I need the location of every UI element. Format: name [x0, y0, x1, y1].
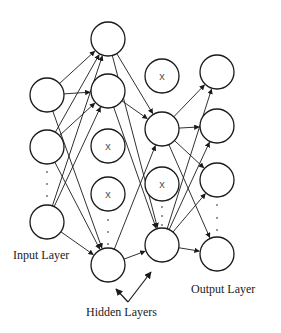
connection-arrow — [122, 101, 147, 119]
output-neuron — [200, 237, 234, 271]
hidden1-neuron — [91, 248, 125, 282]
connections — [52, 51, 211, 259]
output-layer-label: Output Layer — [191, 282, 255, 297]
ellipsis-dot — [46, 195, 48, 197]
ellipsis-dot — [216, 217, 218, 219]
input-neuron — [30, 130, 64, 164]
hidden-layers-label: Hidden Layers — [86, 305, 157, 320]
ellipsis-dot — [161, 224, 163, 226]
connection-arrow — [60, 51, 95, 83]
ellipsis-dot — [107, 243, 109, 245]
connection-arrow — [179, 127, 199, 128]
connection-arrow — [179, 248, 199, 251]
ellipsis-dot — [161, 206, 163, 208]
ellipsis-dot — [107, 219, 109, 221]
dropout-x-mark: x — [159, 70, 165, 82]
hidden1-neuron — [91, 74, 125, 108]
hidden2-neuron — [145, 228, 179, 262]
dropout-x-mark: x — [105, 140, 111, 152]
ellipsis-dot — [107, 231, 109, 233]
connection-arrow — [55, 162, 100, 249]
hidden1-neuron — [91, 22, 125, 56]
ellipsis-dot — [216, 204, 218, 206]
ellipsis-dot — [161, 215, 163, 217]
neurons: xxxx — [30, 22, 234, 282]
output-neuron — [200, 55, 234, 89]
ellipsis-dot — [216, 229, 218, 231]
connection-arrow — [174, 85, 205, 117]
ellipsis-dots — [46, 171, 218, 245]
connection-arrow — [173, 194, 205, 232]
output-neuron — [200, 163, 234, 197]
input-neuron — [30, 78, 64, 112]
connection-arrow — [167, 89, 211, 229]
input-layer-label: Input Layer — [13, 248, 69, 263]
connection-arrow — [124, 251, 145, 259]
ellipsis-dot — [46, 171, 48, 173]
ellipsis-dot — [46, 183, 48, 185]
output-neuron — [200, 109, 234, 143]
input-neuron — [30, 205, 64, 239]
dropout-x-mark: x — [159, 178, 165, 190]
dropout-x-mark: x — [105, 188, 111, 200]
hidden2-neuron — [145, 112, 179, 146]
